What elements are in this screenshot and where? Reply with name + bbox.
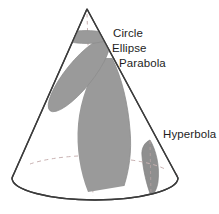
label-hyperbola: Hyperbola: [163, 128, 216, 140]
cone-diagram: [0, 0, 219, 214]
conic-sections-figure: Circle Ellipse Parabola Hyperbola: [0, 0, 219, 214]
label-circle: Circle: [113, 27, 143, 39]
label-parabola: Parabola: [119, 57, 166, 69]
label-ellipse: Ellipse: [112, 42, 147, 54]
